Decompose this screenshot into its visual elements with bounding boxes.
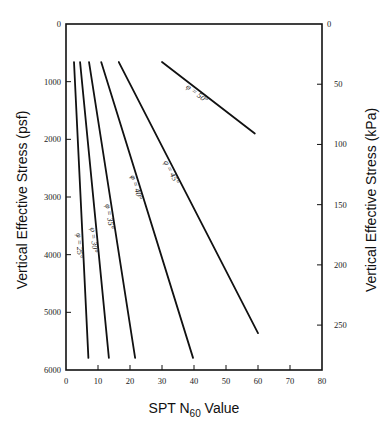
y-tick-label-left: 0 — [57, 19, 61, 29]
y-tick-label-left: 5000 — [44, 307, 61, 317]
curve-label: φ = 25° — [74, 233, 84, 259]
y-tick-label-right: 150 — [334, 200, 347, 210]
curve-phi-25 — [74, 62, 88, 358]
y-tick-label-right: 100 — [334, 139, 347, 149]
y-tick-label-right: 200 — [334, 260, 347, 270]
y-axis-left-ticks: 0100020003000400050006000 — [44, 19, 71, 375]
y-axis-right-title: Vertical Effective Stress (kPa) — [363, 108, 379, 292]
curve-phi-40 — [101, 62, 193, 358]
friction-angle-curves — [74, 62, 258, 358]
y-tick-label-left: 1000 — [44, 77, 61, 87]
y-tick-label-right: 250 — [334, 320, 347, 330]
curve-label: φ = 35° — [103, 203, 116, 230]
x-axis-title: SPT N60 Value — [149, 400, 240, 419]
chart: 01020304050607080 0100020003000400050006… — [0, 0, 386, 428]
x-tick-label: 70 — [286, 376, 295, 386]
y-tick-label-left: 3000 — [44, 192, 61, 202]
x-tick-label: 0 — [64, 376, 68, 386]
curve-label: φ = 50° — [184, 82, 210, 105]
curve-label: φ = 40° — [128, 174, 144, 201]
curve-label: φ = 30° — [88, 227, 99, 254]
curve-label: φ = 45° — [162, 159, 182, 186]
x-axis-ticks: 01020304050607080 — [64, 365, 326, 386]
x-tick-label: 40 — [190, 376, 199, 386]
y-tick-label-right: 50 — [334, 79, 343, 89]
y-axis-left-title: Vertical Effective Stress (psf) — [14, 111, 30, 290]
y-tick-label-right: 0 — [327, 19, 331, 29]
x-tick-label: 10 — [94, 376, 103, 386]
x-tick-label: 60 — [254, 376, 263, 386]
x-tick-label: 20 — [126, 376, 135, 386]
y-tick-label-left: 4000 — [44, 250, 61, 260]
x-tick-label: 50 — [222, 376, 231, 386]
y-tick-label-left: 2000 — [44, 134, 61, 144]
y-tick-label-left: 6000 — [44, 365, 61, 375]
x-tick-label: 30 — [158, 376, 167, 386]
x-tick-label: 80 — [318, 376, 327, 386]
